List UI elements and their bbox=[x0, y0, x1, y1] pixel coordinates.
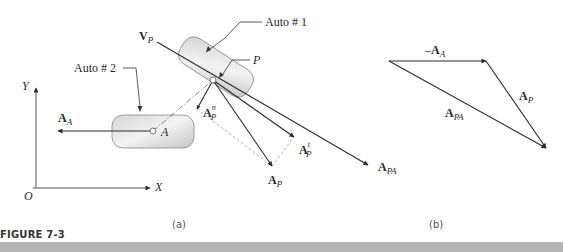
label-a-a: AA bbox=[58, 112, 72, 127]
figure-title: FIGURE 7-3 bbox=[0, 229, 65, 240]
vector-b-a-p-arrow bbox=[486, 61, 546, 148]
x-axis-label: X bbox=[155, 181, 162, 193]
label-a-p-t: AtP bbox=[299, 143, 311, 159]
vector-a-p-t-arrow bbox=[213, 80, 294, 137]
origin-label: O bbox=[24, 190, 33, 202]
label-b-a-p: AP bbox=[519, 90, 533, 105]
diagram-canvas bbox=[0, 0, 563, 252]
caption-b: (b) bbox=[429, 219, 443, 230]
auto-1-body bbox=[174, 33, 257, 102]
point-a-label: A bbox=[161, 126, 168, 138]
figure-divider-bar bbox=[0, 242, 563, 252]
auto-2-callout: Auto # 2 bbox=[74, 62, 116, 74]
auto-1-callout: Auto # 1 bbox=[265, 16, 307, 28]
label-a-pa: APA bbox=[378, 161, 397, 176]
point-a-marker bbox=[150, 128, 156, 134]
y-axis-label: Y bbox=[22, 80, 29, 92]
vector-a-p-n-arrow bbox=[197, 80, 213, 109]
figure-7-3: Y X O Auto # 1 Auto # 2 P A VP AA AnP At… bbox=[0, 0, 563, 252]
label-neg-a-a: –AA bbox=[425, 44, 445, 59]
label-a-p: AP bbox=[268, 174, 282, 189]
label-a-p-n: AnP bbox=[203, 106, 216, 122]
point-p-marker bbox=[210, 77, 216, 83]
label-b-a-pa: APA bbox=[445, 107, 464, 122]
point-p-callout: P bbox=[253, 54, 260, 66]
caption-a: (a) bbox=[172, 219, 186, 230]
label-v-p: VP bbox=[139, 30, 153, 45]
auto-2-leader-arrow bbox=[138, 106, 143, 112]
